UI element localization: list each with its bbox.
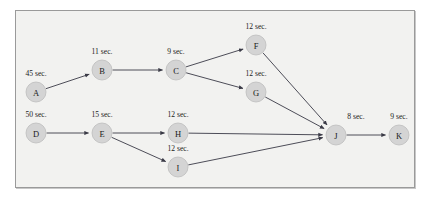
duration-label-k: 9 sec.: [390, 112, 407, 121]
duration-label-c: 9 sec.: [167, 47, 184, 56]
node-d[interactable]: D50 sec.: [25, 110, 46, 143]
node-e[interactable]: E15 sec.: [91, 110, 112, 143]
edge-i-to-j: [188, 138, 322, 165]
node-letter-k: K: [396, 131, 403, 141]
duration-label-a: 45 sec.: [25, 69, 46, 78]
edge-c-to-g: [186, 73, 243, 89]
node-letter-h: H: [175, 129, 181, 139]
node-k[interactable]: K9 sec.: [389, 112, 409, 145]
activity-network-graph: A45 sec.B11 sec.C9 sec.D50 sec.E15 sec.F…: [0, 0, 430, 203]
diagram-stage: A45 sec.B11 sec.C9 sec.D50 sec.E15 sec.F…: [0, 0, 430, 203]
node-letter-b: B: [99, 66, 105, 76]
node-b[interactable]: B11 sec.: [92, 47, 113, 80]
node-g[interactable]: G12 sec.: [245, 69, 266, 102]
duration-label-b: 11 sec.: [92, 47, 113, 56]
node-j[interactable]: J8 sec.: [326, 112, 365, 145]
node-letter-d: D: [33, 129, 39, 139]
duration-label-d: 50 sec.: [25, 110, 46, 119]
duration-label-i: 12 sec.: [167, 144, 188, 153]
node-letter-a: A: [33, 88, 40, 98]
node-a[interactable]: A45 sec.: [25, 69, 46, 102]
edge-f-to-j: [263, 53, 327, 125]
node-letter-i: I: [177, 163, 180, 173]
node-letter-f: F: [254, 41, 259, 51]
node-f[interactable]: F12 sec.: [245, 22, 266, 55]
node-layer: A45 sec.B11 sec.C9 sec.D50 sec.E15 sec.F…: [25, 22, 409, 177]
node-c[interactable]: C9 sec.: [166, 47, 186, 80]
duration-label-g: 12 sec.: [245, 69, 266, 78]
edge-a-to-b: [46, 74, 89, 88]
edge-h-to-j: [188, 133, 322, 135]
edge-g-to-j: [265, 97, 324, 129]
node-letter-c: C: [173, 66, 179, 76]
edge-c-to-f: [186, 49, 243, 67]
node-h[interactable]: H12 sec.: [167, 110, 188, 143]
duration-label-j: 8 sec.: [347, 112, 364, 121]
duration-label-h: 12 sec.: [167, 110, 188, 119]
node-i[interactable]: I12 sec.: [167, 144, 188, 177]
duration-label-e: 15 sec.: [91, 110, 112, 119]
node-letter-g: G: [253, 88, 259, 98]
node-letter-e: E: [99, 129, 104, 139]
duration-label-f: 12 sec.: [245, 22, 266, 31]
edge-e-to-i: [112, 137, 166, 161]
